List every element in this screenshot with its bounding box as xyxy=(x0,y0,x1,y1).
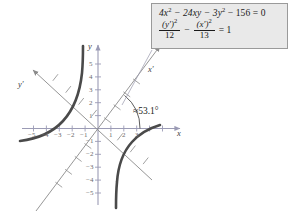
numerator-exponent: 2 xyxy=(174,17,177,24)
y-tick-label-neg1: −1 xyxy=(86,137,93,145)
y-tick-label-4: 4 xyxy=(89,73,93,81)
x-tick-label-1: 1 xyxy=(109,131,113,139)
hyperbola-branch-upper-left xyxy=(20,46,83,141)
equation-minus-operator: − xyxy=(180,25,193,35)
y-tick-label-2: 2 xyxy=(89,99,93,107)
fraction-denominator-12: 12 xyxy=(165,31,174,41)
fraction-numerator-x-prime: (x′)2 xyxy=(194,20,215,30)
eq-term-3y2: − 3y xyxy=(204,8,222,18)
rotated-axes-hyperbola-figure: y x y′ x′ ≈53.1° −5 −4 −3 −2 −1 1 2 3 1 … xyxy=(0,0,299,222)
x-tick-label-neg5: −5 xyxy=(28,131,35,139)
x-tick-label-neg3: −3 xyxy=(54,131,61,139)
y-tick-label-5: 5 xyxy=(89,60,93,68)
x-tick-label-neg4: −4 xyxy=(41,131,48,139)
equation-standard-form: (y′)2 12 − (x′)2 13 = 1 xyxy=(159,20,281,41)
equation-callout-box: 4x2 − 24xy − 3y2 − 156 = 0 (y′)2 12 − (x… xyxy=(151,3,288,49)
x-axis-label: x xyxy=(177,128,181,138)
fraction-x-prime-squared-over-13: (x′)2 13 xyxy=(194,20,215,41)
x-tick-label-3: 3 xyxy=(135,131,139,139)
eq-exp-y2: 2 xyxy=(222,6,225,13)
numerator-text: (x′) xyxy=(197,19,209,29)
eq-exp-x2: 2 xyxy=(168,6,171,13)
x-tick-label-neg2: −2 xyxy=(67,131,74,139)
fraction-denominator-13: 13 xyxy=(200,31,209,41)
y-tick-label-neg3: −3 xyxy=(86,163,93,171)
y-tick-label-neg5: −5 xyxy=(86,189,93,197)
eq-term-4x2: 4x xyxy=(159,8,168,18)
fraction-numerator-y-prime: (y′)2 xyxy=(159,20,180,30)
y-tick-label-neg4: −4 xyxy=(86,176,93,184)
eq-term-24xy: − 24xy xyxy=(174,8,201,18)
x-tick-label-2: 2 xyxy=(122,131,126,139)
x-prime-axis-label: x′ xyxy=(148,64,154,74)
y-tick-label-3: 3 xyxy=(89,86,93,94)
numerator-text: (y′) xyxy=(162,19,174,29)
equation-equals-one: = 1 xyxy=(215,25,235,35)
numerator-exponent: 2 xyxy=(209,17,212,24)
callout-leader-line xyxy=(122,50,152,105)
fraction-y-prime-squared-over-12: (y′)2 12 xyxy=(159,20,180,41)
eq-term-constant: − 156 = 0 xyxy=(228,8,266,18)
y-tick-label-neg2: −2 xyxy=(86,150,93,158)
equation-general-form: 4x2 − 24xy − 3y2 − 156 = 0 xyxy=(159,8,281,18)
y-tick-label-1: 1 xyxy=(89,112,93,120)
rotation-angle-label: ≈53.1° xyxy=(133,106,159,116)
y-axis-label: y xyxy=(88,41,92,51)
y-prime-axis-label: y′ xyxy=(18,79,24,89)
